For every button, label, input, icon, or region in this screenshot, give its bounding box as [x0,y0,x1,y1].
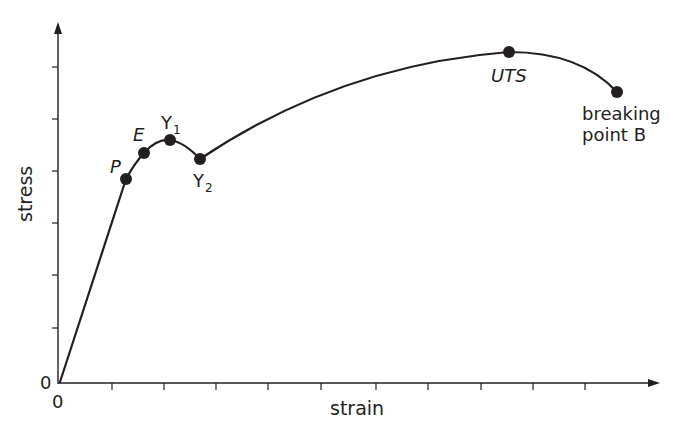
point-p [120,173,132,185]
point-breaking [611,86,623,98]
label-p: P [110,158,121,176]
x-origin-label: 0 [52,393,63,411]
label-y1-main: Y [161,112,172,133]
y-axis-arrow-icon [54,22,62,34]
y-origin-label: 0 [40,374,51,392]
label-breaking-line2: point B [582,126,646,144]
y-axis [52,22,62,384]
x-axis [58,379,660,390]
label-breaking-line1: breaking [582,105,661,123]
label-y1: Y1 [161,114,181,132]
x-axis-arrow-icon [648,379,660,387]
label-y2: Y2 [193,172,213,190]
x-axis-label: strain [330,399,384,418]
label-y2-sub: 2 [205,181,213,195]
label-e: E [133,126,144,144]
label-y1-sub: 1 [173,123,181,137]
stress-strain-chart [0,0,679,434]
point-y2 [194,153,206,165]
stress-strain-curve [60,52,617,382]
y-axis-label: stress [16,162,35,222]
point-e [138,147,150,159]
label-y2-main: Y [193,170,204,191]
label-uts: UTS [491,67,527,85]
point-uts [503,46,515,58]
